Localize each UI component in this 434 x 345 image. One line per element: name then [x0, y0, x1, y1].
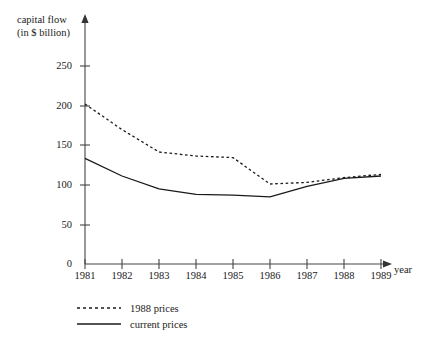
plot-area: [0, 0, 434, 345]
capital-flow-line-chart: capital flow (in $ billion) year: [0, 0, 434, 345]
x-tick-label-1981: 1981: [67, 270, 103, 281]
legend-label-current-prices: current prices: [130, 319, 187, 330]
x-tick-label-1985: 1985: [215, 270, 251, 281]
y-tick-label-100: 100: [46, 179, 72, 190]
x-tick-label-1987: 1987: [289, 270, 325, 281]
chart-legend: 1988 prices current prices: [77, 300, 187, 332]
legend-item-1988-prices: 1988 prices: [77, 300, 187, 316]
x-tick-label-1989: 1989: [363, 270, 399, 281]
y-tick-label-250: 250: [46, 60, 72, 71]
legend-swatch-solid-icon: [77, 319, 121, 329]
series-line-1988-prices: [85, 104, 381, 184]
legend-swatch-dashed-icon: [77, 303, 121, 313]
y-tick-label-150: 150: [46, 139, 72, 150]
x-tick-label-1984: 1984: [178, 270, 214, 281]
legend-item-current-prices: current prices: [77, 316, 187, 332]
y-axis: [81, 14, 88, 264]
y-tick-label-50: 50: [46, 219, 72, 230]
x-tick-label-1983: 1983: [141, 270, 177, 281]
x-tick-label-1982: 1982: [104, 270, 140, 281]
x-axis: [85, 260, 392, 267]
x-tick-label-1986: 1986: [252, 270, 288, 281]
x-tick-label-1988: 1988: [326, 270, 362, 281]
legend-label-1988-prices: 1988 prices: [130, 303, 179, 314]
y-tick-label-200: 200: [46, 100, 72, 111]
series-line-current-prices: [85, 158, 381, 196]
y-tick-label-0: 0: [46, 258, 72, 269]
